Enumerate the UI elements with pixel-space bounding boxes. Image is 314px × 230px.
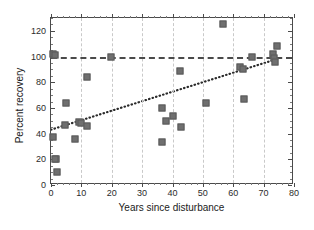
x-tick-minor	[75, 16, 76, 18]
data-point	[61, 121, 68, 128]
x-tick	[264, 183, 265, 187]
y-tick-minor	[290, 63, 292, 64]
data-point	[158, 104, 165, 111]
x-tick-label: 70	[259, 188, 269, 198]
y-tick-label: 20	[36, 154, 46, 164]
x-tick	[173, 183, 174, 187]
x-tick-minor	[245, 16, 246, 18]
y-tick-minor	[290, 95, 292, 96]
scatter-chart-figure: 01020304050607080020406080100120 Years s…	[0, 0, 314, 230]
trend-line	[51, 18, 292, 183]
y-tick-minor	[51, 24, 53, 25]
x-tick-minor	[209, 183, 210, 185]
y-tick-minor	[51, 102, 53, 103]
x-tick-minor	[185, 183, 186, 185]
data-point	[177, 68, 184, 75]
x-tick-minor	[258, 183, 259, 185]
y-tick-minor	[290, 127, 292, 128]
x-tick-minor	[166, 16, 167, 18]
x-tick-minor	[94, 16, 95, 18]
y-tick-label: 60	[36, 103, 46, 113]
x-tick-minor	[63, 183, 64, 185]
x-tick-minor	[288, 16, 289, 18]
y-tick-minor	[290, 121, 292, 122]
y-tick-minor	[51, 166, 53, 167]
x-tick-minor	[124, 183, 125, 185]
x-tick-minor	[106, 16, 107, 18]
x-tick	[173, 14, 174, 18]
y-tick-minor	[51, 121, 53, 122]
gridline-vertical	[233, 18, 234, 183]
x-tick-minor	[251, 16, 252, 18]
x-tick-label: 40	[167, 188, 177, 198]
data-point	[249, 54, 256, 61]
data-point	[271, 58, 278, 65]
y-tick-minor	[51, 114, 53, 115]
y-tick	[288, 134, 292, 135]
x-tick	[294, 14, 295, 18]
data-point	[84, 122, 91, 129]
x-tick-minor	[118, 183, 119, 185]
x-tick	[81, 183, 82, 187]
gridline-vertical	[173, 18, 174, 183]
x-tick-minor	[227, 16, 228, 18]
y-tick-minor	[290, 89, 292, 90]
data-point	[240, 95, 247, 102]
x-tick-minor	[179, 16, 180, 18]
y-tick-minor	[51, 89, 53, 90]
y-tick-minor	[51, 37, 53, 38]
x-tick-minor	[160, 16, 161, 18]
x-tick	[264, 14, 265, 18]
y-tick-minor	[290, 76, 292, 77]
x-tick	[203, 183, 204, 187]
x-tick-minor	[239, 16, 240, 18]
x-tick-label: 10	[76, 188, 86, 198]
y-tick-minor	[51, 179, 53, 180]
data-point	[108, 54, 115, 61]
x-tick-minor	[185, 16, 186, 18]
x-tick	[294, 183, 295, 187]
x-tick-minor	[282, 16, 283, 18]
x-tick-label: 80	[289, 188, 299, 198]
plot-area: 01020304050607080020406080100120	[50, 17, 293, 184]
x-tick-minor	[276, 16, 277, 18]
data-point	[239, 65, 246, 72]
y-tick	[288, 159, 292, 160]
gridline-vertical	[112, 18, 113, 183]
data-point	[84, 74, 91, 81]
x-tick-minor	[239, 183, 240, 185]
x-tick-label: 30	[137, 188, 147, 198]
x-tick-minor	[191, 16, 192, 18]
data-point	[178, 124, 185, 131]
y-tick	[288, 108, 292, 109]
y-tick-minor	[51, 153, 53, 154]
y-tick-minor	[290, 50, 292, 51]
y-tick-minor	[290, 24, 292, 25]
x-tick-minor	[100, 16, 101, 18]
y-tick-minor	[290, 146, 292, 147]
x-tick-minor	[57, 16, 58, 18]
y-axis-title: Percent recovery	[14, 46, 25, 166]
x-tick-minor	[57, 183, 58, 185]
y-tick	[51, 108, 55, 109]
x-tick	[81, 14, 82, 18]
y-tick-label: 100	[31, 52, 46, 62]
x-tick-minor	[148, 16, 149, 18]
x-tick-minor	[166, 183, 167, 185]
data-point	[63, 99, 70, 106]
data-point	[219, 21, 226, 28]
y-tick	[288, 57, 292, 58]
y-tick-minor	[290, 140, 292, 141]
x-tick-minor	[124, 16, 125, 18]
y-tick	[288, 82, 292, 83]
x-tick-minor	[276, 183, 277, 185]
x-tick-minor	[75, 183, 76, 185]
x-tick-minor	[160, 183, 161, 185]
y-tick	[51, 31, 55, 32]
y-tick-minor	[51, 76, 53, 77]
x-tick-minor	[221, 16, 222, 18]
x-tick-minor	[130, 16, 131, 18]
x-tick-minor	[154, 16, 155, 18]
gridline-vertical	[264, 18, 265, 183]
y-tick-label: 40	[36, 129, 46, 139]
